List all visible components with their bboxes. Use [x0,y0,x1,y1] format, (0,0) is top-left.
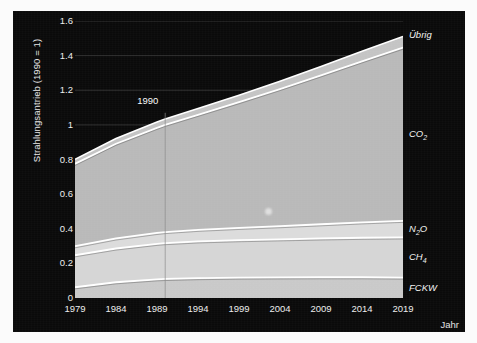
x-tick-1989: 1989 [146,304,167,314]
y-tick-1.4: 1.4 [39,51,73,61]
x-tick-2019: 2019 [392,304,413,314]
x-axis-tick-labels: 197919841989199419992004200920142019 [13,304,465,320]
y-tick-0: 0 [39,293,73,303]
x-axis-title: Jahr [441,319,459,330]
series-label-co2-subscript: 2 [423,134,427,141]
x-tick-2014: 2014 [351,304,372,314]
series-label-n2o-text2: O [420,223,427,234]
annotation-1990: 1990 [137,95,158,106]
series-label-n2o: N2O [409,223,427,236]
x-tick-2004: 2004 [269,304,290,314]
y-tick-0.6: 0.6 [39,189,73,199]
series-label-n2o-text: N [409,223,416,234]
y-tick-1.2: 1.2 [39,86,73,96]
series-label-co2-text: CO [409,128,423,139]
x-tick-2009: 2009 [310,304,331,314]
series-label-ch4: CH4 [409,251,427,264]
series-label-fckw: FCKW [409,282,437,293]
chart-panel: Strahlungsantrieb (1990 = 1) Jahr 00.20.… [13,11,465,332]
y-tick-1.6: 1.6 [39,16,73,26]
y-tick-0.8: 0.8 [39,155,73,165]
series-label-ubrig: Übrig [409,29,432,40]
y-axis-tick-labels: 00.20.40.60.811.21.41.6 [31,11,73,332]
series-label-co2: CO2 [409,128,427,141]
x-tick-1984: 1984 [105,304,126,314]
y-tick-0.4: 0.4 [39,224,73,234]
plot-area: 1990 [75,21,403,298]
y-tick-0.2: 0.2 [39,259,73,269]
series-label-ch4-subscript: 4 [423,257,427,264]
x-tick-1994: 1994 [187,304,208,314]
area-co2 [75,48,403,247]
stacked-area-svg [75,21,403,298]
image-artifact-speck [265,208,272,215]
x-tick-1979: 1979 [64,304,85,314]
series-label-ch4-text: CH [409,251,423,262]
x-tick-1999: 1999 [228,304,249,314]
area-series-group [75,36,403,298]
y-tick-1: 1 [39,120,73,130]
chart-page: Strahlungsantrieb (1990 = 1) Jahr 00.20.… [0,0,477,343]
